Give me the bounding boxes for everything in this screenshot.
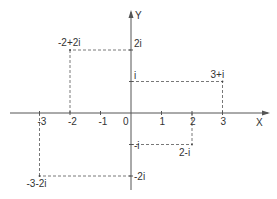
y-tick-label: -2i [134, 171, 145, 182]
y-tick-label: -i [134, 140, 140, 151]
y-tick-label: i [134, 70, 136, 81]
complex-plane-diagram: X Y 0 -3-2-11232ii-i-2i -2+2i3+i2-i-3-2i [0, 0, 277, 199]
complex-point [69, 49, 71, 51]
complex-point [39, 175, 41, 177]
x-tick-label: 1 [160, 116, 166, 127]
x-tick-label: -2 [68, 116, 77, 127]
x-tick-label: -1 [99, 116, 108, 127]
y-tick-label: 2i [134, 38, 142, 49]
point-label: -3-2i [27, 178, 47, 189]
complex-point [222, 81, 224, 83]
y-axis-label: Y [135, 10, 142, 21]
x-axis-label: X [256, 117, 263, 128]
point-label: 3+i [211, 69, 225, 80]
point-label: -2+2i [58, 37, 81, 48]
x-tick-label: 3 [221, 116, 227, 127]
x-tick-label: -3 [38, 116, 47, 127]
point-label: 2-i [179, 147, 190, 158]
x-axis-arrow-icon [262, 111, 270, 116]
y-axis-arrow-icon [129, 10, 134, 18]
origin-label: 0 [123, 116, 129, 127]
x-tick-label: 2 [190, 116, 196, 127]
complex-point [191, 144, 193, 146]
